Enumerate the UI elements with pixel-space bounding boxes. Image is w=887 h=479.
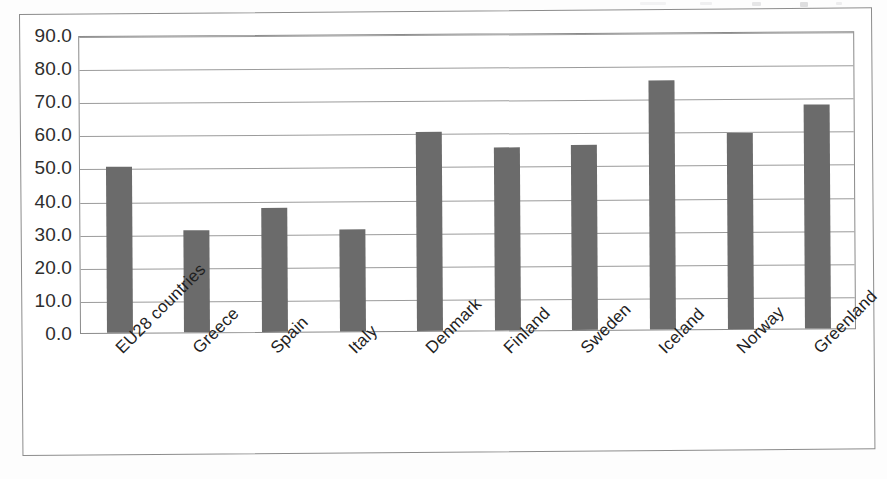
gridline: [79, 65, 853, 71]
bar[interactable]: [804, 104, 831, 329]
gridline: [79, 32, 853, 38]
bar[interactable]: [106, 167, 133, 333]
y-axis-tick-label: 80.0: [0, 58, 72, 80]
y-axis-tick-label: 0.0: [0, 323, 72, 345]
bar-chart: 0.010.020.030.040.050.060.070.080.090.0 …: [0, 0, 887, 479]
y-axis-tick-label: 50.0: [0, 157, 72, 179]
y-axis-tick-label: 70.0: [0, 91, 72, 113]
y-axis-tick-label: 20.0: [0, 257, 72, 279]
bar[interactable]: [726, 133, 753, 329]
y-axis-tick-label: 40.0: [0, 191, 72, 213]
bar[interactable]: [339, 229, 366, 331]
y-axis: 0.010.020.030.040.050.060.070.080.090.0: [0, 36, 72, 334]
bar[interactable]: [261, 208, 288, 332]
y-axis-tick-label: 10.0: [0, 290, 72, 312]
gridline: [80, 98, 854, 104]
bar[interactable]: [416, 132, 443, 331]
bar[interactable]: [494, 147, 521, 331]
y-axis-tick-label: 30.0: [0, 224, 72, 246]
bar[interactable]: [571, 145, 598, 330]
y-axis-tick-label: 60.0: [0, 124, 72, 146]
bar[interactable]: [648, 80, 676, 329]
chart-screenshot: 0.010.020.030.040.050.060.070.080.090.0 …: [0, 0, 887, 479]
y-axis-tick-label: 90.0: [0, 25, 72, 47]
